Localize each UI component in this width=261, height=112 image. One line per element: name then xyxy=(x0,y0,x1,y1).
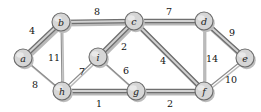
edge-weight-c-d: 7 xyxy=(166,6,172,17)
node-label-c: c xyxy=(131,16,137,27)
edge-weight-b-h: 11 xyxy=(48,52,60,63)
edge-weight-d-f: 14 xyxy=(206,53,218,64)
edge-weight-g-h: 1 xyxy=(96,98,102,109)
node-label-b: b xyxy=(58,17,64,28)
edge-weight-f-g: 2 xyxy=(167,98,173,109)
node-label-e: e xyxy=(242,53,248,64)
edge-weight-a-h: 8 xyxy=(32,79,38,90)
edge-weight-b-c: 8 xyxy=(94,6,100,17)
edge-weight-a-b: 4 xyxy=(29,25,35,36)
edge-weight-h-i: 7 xyxy=(79,66,85,77)
edge-weight-c-i: 2 xyxy=(121,41,127,52)
edge-b-c-highlight xyxy=(61,21,134,22)
graph-canvas: 48811724914102167 abcdefghi xyxy=(0,0,261,112)
node-label-h: h xyxy=(59,86,65,97)
edge-weight-e-f: 10 xyxy=(225,74,237,85)
graph-figure: 48811724914102167 abcdefghi xyxy=(0,0,261,112)
edge-weight-d-e: 9 xyxy=(229,27,235,38)
node-label-a: a xyxy=(20,53,26,64)
node-label-g: g xyxy=(133,86,139,97)
edge-c-f-highlight xyxy=(134,21,204,91)
node-label-i: i xyxy=(96,52,99,63)
node-label-d: d xyxy=(201,16,207,27)
edge-weight-g-i: 6 xyxy=(123,65,129,76)
edge-weight-c-f: 4 xyxy=(160,55,166,66)
